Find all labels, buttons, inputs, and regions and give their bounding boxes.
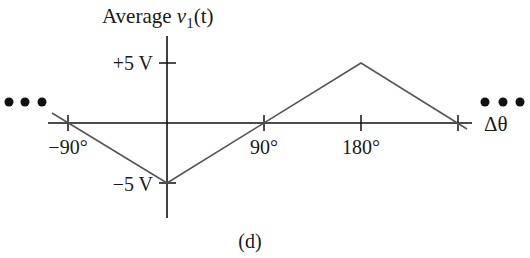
- ellipsis-right: [481, 98, 525, 107]
- y-tick-label-pos: +5 V: [113, 52, 154, 74]
- figure-caption: (d): [238, 230, 261, 253]
- x-axis-label: Δθ: [484, 112, 508, 136]
- y-axis-title: Average v1(t): [102, 4, 213, 31]
- x-tick-label-90: 90°: [250, 136, 278, 158]
- triangle-wave-diagram: Average v1(t) +5 V −5 V −90° 90° 180° Δθ…: [0, 0, 530, 258]
- x-tick-label-neg90: −90°: [48, 136, 87, 158]
- y-tick-label-neg: −5 V: [113, 173, 154, 195]
- ellipsis-left: [5, 98, 47, 107]
- x-tick-label-180: 180°: [342, 136, 380, 158]
